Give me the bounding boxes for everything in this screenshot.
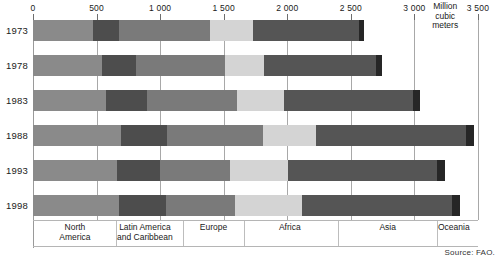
bar-row xyxy=(0,125,499,146)
bar-segment xyxy=(230,160,288,181)
bar-segment xyxy=(33,55,102,76)
bar-segment xyxy=(121,125,167,146)
gridline xyxy=(224,20,225,220)
x-axis-tick-label: 2 500 xyxy=(340,3,362,13)
bar-segment xyxy=(413,90,420,111)
bar-segment xyxy=(263,125,316,146)
gridline xyxy=(478,20,479,220)
bar-segment xyxy=(136,55,225,76)
bar-segment xyxy=(288,160,437,181)
plot-area: 05001 0001 5002 0002 5003 0003 500Millio… xyxy=(0,0,499,260)
category-legend-label: Oceania xyxy=(399,223,499,233)
bar-segment xyxy=(264,55,377,76)
bar-row xyxy=(0,160,499,181)
bar-segment xyxy=(225,55,264,76)
bar-segment xyxy=(253,20,359,41)
category-band-topline xyxy=(33,220,478,221)
x-axis-tick-label: 0 xyxy=(31,3,36,13)
bar-segment xyxy=(160,160,230,181)
bar-segment xyxy=(452,195,460,216)
gridline xyxy=(287,20,288,220)
bar-row xyxy=(0,55,499,76)
bar-row xyxy=(0,90,499,111)
bar-segment xyxy=(33,20,93,41)
bar-segment xyxy=(119,195,166,216)
bar-segment xyxy=(437,160,445,181)
chart-baseline xyxy=(33,246,478,247)
bar-segment xyxy=(117,160,160,181)
bar-segment xyxy=(210,20,253,41)
bar-segment xyxy=(359,20,364,41)
bar-segment xyxy=(284,90,412,111)
bar-segment xyxy=(33,160,117,181)
bar-segment xyxy=(33,195,119,216)
bar-segment xyxy=(167,125,263,146)
gridline xyxy=(97,20,98,220)
gridline xyxy=(351,20,352,220)
gridline xyxy=(160,20,161,220)
bar-segment xyxy=(147,90,237,111)
bar-segment xyxy=(237,90,284,111)
bar-segment xyxy=(33,90,106,111)
chart-root: 05001 0001 5002 0002 5003 0003 500Millio… xyxy=(0,0,499,260)
bar-segment xyxy=(119,20,210,41)
x-axis-tick-label: 1 000 xyxy=(149,3,171,13)
bar-segment xyxy=(316,125,466,146)
x-axis-tick-label: 1 500 xyxy=(213,3,235,13)
bar-row xyxy=(0,195,499,216)
bar-row xyxy=(0,20,499,41)
x-axis-tick-label: 2 000 xyxy=(276,3,298,13)
x-axis-tick-label: 500 xyxy=(89,3,104,13)
bar-segment xyxy=(235,195,302,216)
bar-segment xyxy=(106,90,147,111)
bar-segment xyxy=(93,20,119,41)
bar-segment xyxy=(166,195,235,216)
gridline xyxy=(414,20,415,220)
bar-segment xyxy=(466,125,474,146)
bar-segment xyxy=(302,195,452,216)
source-note: Source: FAO. xyxy=(445,248,495,257)
bar-segment xyxy=(376,55,382,76)
bar-segment xyxy=(102,55,136,76)
bar-segment xyxy=(33,125,121,146)
category-legend-label: Africa xyxy=(235,223,345,233)
x-axis-tick-label: 3 500 xyxy=(467,3,489,13)
